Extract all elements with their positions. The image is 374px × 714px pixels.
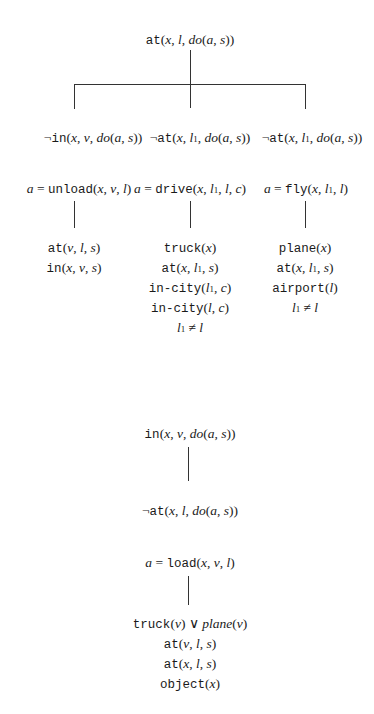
- condition: at(x, l, s): [133, 654, 247, 674]
- connector-branch-left: [74, 84, 75, 109]
- action-unload: a = unload(x, v, l): [27, 182, 131, 197]
- condition: object(x): [133, 674, 247, 694]
- connector-horizontal: [74, 84, 306, 85]
- condition: at(v, l, s): [47, 238, 102, 258]
- connector-fly: [305, 201, 306, 228]
- condition: plane(x): [272, 238, 337, 258]
- condition: airport(l): [272, 278, 337, 298]
- condition: in(x, v, s): [47, 258, 102, 278]
- connector-drive: [190, 201, 191, 228]
- condition: in-city(l1, c): [149, 278, 232, 298]
- condition: in-city(l, c): [149, 298, 232, 318]
- conditions-load: truck(v) ∨ plane(v) at(v, l, s) at(x, l,…: [133, 614, 247, 694]
- conditions-unload: at(v, l, s) in(x, v, s): [47, 238, 102, 278]
- condition: at(v, l, s): [133, 634, 247, 654]
- condition: l1 ≠ l: [149, 318, 232, 338]
- condition: at(x, l1, s): [272, 258, 337, 278]
- root-node-at: at(x, l, do(a, s)): [146, 33, 235, 48]
- connector-root2: [188, 447, 189, 481]
- effect-not-at-fly: ¬at(x, l1, do(a, s)): [262, 131, 363, 146]
- connector-unload: [74, 201, 75, 228]
- conditions-fly: plane(x) at(x, l1, s) airport(l) l1 ≠ l: [272, 238, 337, 318]
- condition: truck(v) ∨ plane(v): [133, 614, 247, 634]
- effect-not-at: ¬at(x, l, do(a, s)): [142, 504, 238, 519]
- action-drive: a = drive(x, l1, l, c): [134, 182, 246, 197]
- condition: at(x, l1, s): [149, 258, 232, 278]
- root-node-in: in(x, v, do(a, s)): [145, 427, 236, 442]
- condition: truck(x): [149, 238, 232, 258]
- effect-not-at-drive: ¬at(x, l1, do(a, s)): [150, 131, 251, 146]
- conditions-drive: truck(x) at(x, l1, s) in-city(l1, c) in-…: [149, 238, 232, 338]
- condition: l1 ≠ l: [272, 298, 337, 318]
- connector-branch-right: [305, 84, 306, 109]
- action-fly: a = fly(x, l1, l): [264, 182, 348, 197]
- effect-not-in: ¬in(x, v, do(a, s)): [44, 131, 142, 146]
- action-load: a = load(x, v, l): [145, 556, 234, 571]
- connector-root-trunk: [190, 50, 191, 108]
- connector-load: [188, 576, 189, 605]
